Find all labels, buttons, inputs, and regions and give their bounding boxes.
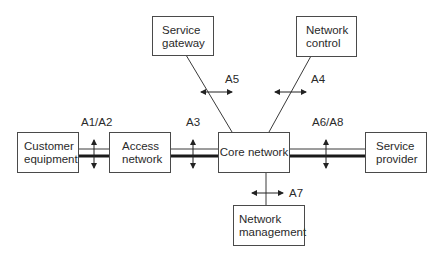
interface-label-a1-a2: A1/A2 (81, 116, 112, 129)
interface-label-a3: A3 (186, 116, 200, 129)
node-label: Network management (239, 213, 306, 239)
node-core-network: Core network (218, 132, 290, 173)
node-label: Access network (122, 140, 162, 166)
interface-label-a7: A7 (289, 187, 303, 200)
node-network-control: Network control (296, 16, 357, 57)
node-network-management: Network management (233, 205, 305, 246)
node-service-provider: Service provider (365, 132, 427, 173)
interface-label-a4: A4 (311, 73, 325, 86)
node-customer-equipment: Customer equipment (17, 132, 79, 173)
interface-label-a6-a8: A6/A8 (312, 116, 343, 129)
node-label: Network control (306, 24, 348, 50)
node-label: Service gateway (162, 24, 205, 50)
link-control-core (269, 56, 311, 132)
link-access-core (170, 149, 218, 156)
link-core-provider (289, 149, 365, 156)
node-access-network: Access network (109, 132, 171, 173)
node-label: Core network (219, 133, 289, 172)
node-service-gateway: Service gateway (152, 16, 214, 56)
interface-label-a5: A5 (225, 73, 239, 86)
node-label: Customer equipment (24, 140, 78, 166)
connection-lines (0, 0, 442, 258)
node-label: Service provider (376, 140, 418, 166)
